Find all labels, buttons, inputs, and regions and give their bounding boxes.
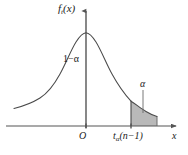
origin-label: O bbox=[79, 131, 86, 141]
plot-canvas bbox=[0, 0, 188, 155]
t-distribution-figure: ft(x) 1−α α O tα(n−1) x bbox=[0, 0, 188, 155]
x-axis-label: x bbox=[172, 131, 176, 141]
confidence-area-label: 1−α bbox=[63, 54, 79, 64]
alpha-area-label: α bbox=[140, 79, 145, 89]
y-axis-label-argument: (x) bbox=[63, 2, 75, 14]
critical-value-argument: (n−1) bbox=[119, 130, 142, 141]
critical-value-label: tα(n−1) bbox=[113, 131, 143, 143]
alpha-tail-region bbox=[131, 101, 157, 126]
y-axis-label: ft(x) bbox=[58, 3, 75, 16]
